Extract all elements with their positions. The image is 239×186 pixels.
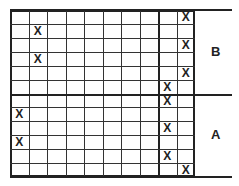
- x-mark: X: [177, 38, 195, 52]
- x-mark: X: [29, 52, 47, 66]
- x-mark: X: [177, 163, 195, 177]
- x-mark: X: [177, 66, 195, 80]
- section-label-b: B: [211, 44, 220, 59]
- grid-row-line: [10, 94, 232, 96]
- grid-row-line: [10, 135, 195, 136]
- x-mark: X: [158, 121, 176, 135]
- x-mark: X: [10, 107, 28, 121]
- grid-row-line: [10, 66, 195, 67]
- grid-row-line: [10, 163, 195, 164]
- x-mark: X: [158, 94, 176, 108]
- section-label-a: A: [211, 127, 220, 142]
- x-mark: X: [29, 24, 47, 38]
- x-mark: X: [158, 149, 176, 163]
- x-mark: X: [10, 135, 28, 149]
- grid-row-line: [10, 38, 195, 39]
- grid-row-line: [10, 107, 195, 108]
- top-extension-line: [10, 9, 232, 11]
- x-mark: X: [158, 80, 176, 94]
- bottom-extension-line: [10, 176, 232, 178]
- x-mark: X: [177, 10, 195, 24]
